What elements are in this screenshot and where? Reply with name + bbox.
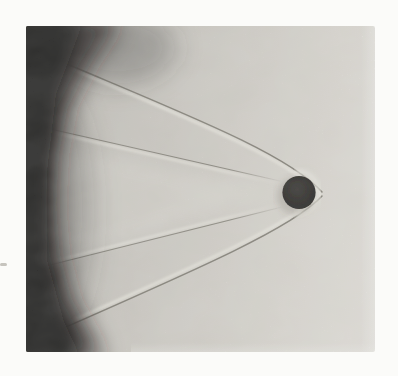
photo-scene-svg	[0, 0, 398, 376]
margin-speck	[0, 263, 7, 266]
film-grain	[26, 26, 375, 352]
page	[0, 0, 398, 376]
